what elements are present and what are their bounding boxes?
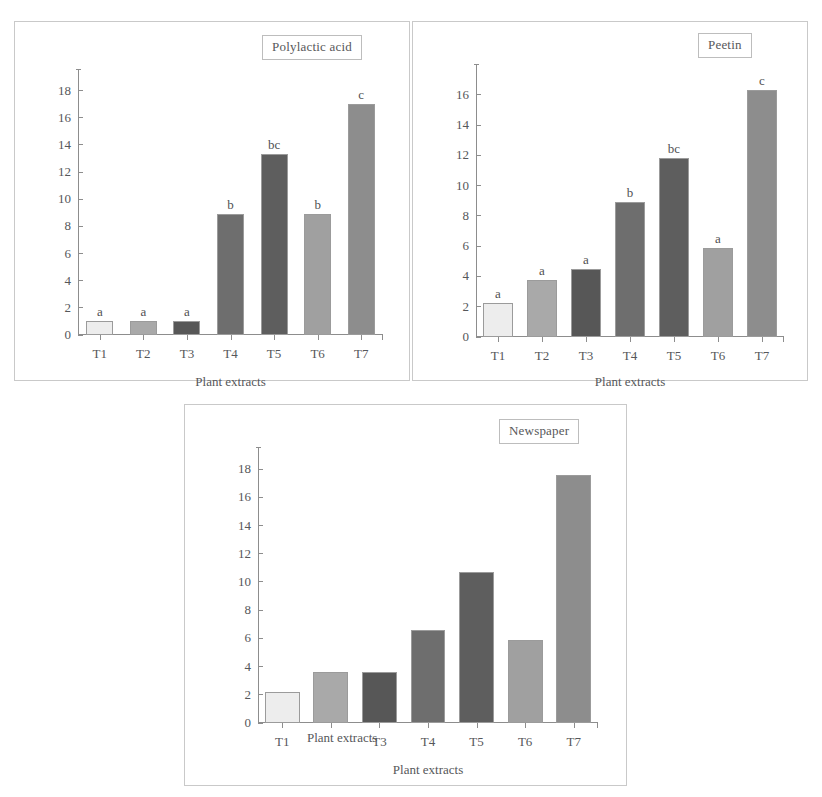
x-tick-mark-end [597,723,598,728]
bar-significance-letter: c [358,87,364,103]
y-tick-label: 14 [238,517,251,535]
chart-panel-newspaper: Newspaper 024681012141618T1T3T4T5T6T7 Pl… [184,404,627,786]
bar-significance-letter: a [97,304,103,320]
x-tick-mark [674,337,675,342]
bar[interactable] [313,672,348,723]
bar[interactable]: a [703,248,732,337]
y-tick-mark [476,155,481,156]
y-tick-mark [258,723,263,724]
bar[interactable] [411,630,446,723]
bar-significance-letter: b [627,185,634,201]
x-tick-label: T2 [136,346,150,362]
x-tick-label: T3 [180,346,194,362]
x-tick-mark [574,723,575,728]
x-tick-label: T2 [535,348,549,364]
plot-area-polylactic: 024681012141618aT1aT2aT3bT4bcT5bT6cT7 [78,77,383,335]
y-tick-mark [476,125,481,126]
bar[interactable]: a [483,303,512,337]
y-tick-label: 0 [245,714,252,732]
y-tick-mark [258,469,263,470]
x-tick-mark [630,337,631,342]
bar-significance-letter: a [539,263,545,279]
x-tick-mark [379,723,380,728]
bar[interactable]: bc [659,158,688,337]
y-tick-mark [78,90,83,91]
y-tick-mark [258,581,263,582]
bar[interactable]: a [130,321,157,335]
y-tick-mark [78,280,83,281]
x-tick-label: T7 [566,734,580,750]
bar[interactable]: b [615,202,644,337]
y-tick-mark [476,246,481,247]
stray-axis-label-newspaper: Plant extracts [307,730,377,746]
bar[interactable]: a [527,280,556,337]
bar[interactable]: c [348,104,375,335]
y-tick-label: 16 [58,109,71,127]
x-tick-label: T7 [354,346,368,362]
bar-significance-letter: a [140,304,146,320]
x-tick-mark [282,723,283,728]
bar-significance-letter: bc [268,137,280,153]
plot-area-newspaper: 024681012141618T1T3T4T5T6T7 [258,455,598,723]
bar-significance-letter: a [583,252,589,268]
y-tick-mark [78,226,83,227]
x-tick-label: T4 [421,734,435,750]
y-tick-label: 16 [238,488,251,506]
x-tick-label: T6 [518,734,532,750]
y-tick-label: 16 [456,86,469,104]
bar[interactable] [459,572,494,723]
chart-title-peetin: Peetin [698,33,752,58]
y-tick-mark [258,638,263,639]
x-tick-label: T1 [93,346,107,362]
bar[interactable]: b [217,214,244,335]
x-tick-label: T6 [310,346,324,362]
chart-panel-peetin: Peetin 0246810121416aT1aT2aT3bT4bcT5aT6c… [412,21,808,381]
y-tick-label: 10 [58,190,71,208]
x-tick-mark-end [382,335,383,340]
y-tick-label: 14 [58,136,71,154]
y-tick-label: 10 [456,177,469,195]
x-tick-mark [231,335,232,340]
bar[interactable]: a [173,321,200,335]
bar-significance-letter: a [495,286,501,302]
bar[interactable] [508,640,543,723]
x-axis-title-peetin: Plant extracts [476,374,784,390]
y-tick-mark [258,497,263,498]
y-axis-extension [476,64,477,73]
y-tick-mark [258,610,263,611]
x-axis-title-newspaper: Plant extracts [258,762,598,778]
y-tick-label: 8 [245,601,252,619]
bar-significance-letter: b [227,197,234,213]
y-tick-label: 6 [245,629,252,647]
bar[interactable]: a [86,321,113,335]
y-tick-mark [78,199,83,200]
y-tick-mark [476,306,481,307]
bar[interactable] [362,672,397,723]
x-tick-mark [762,337,763,342]
y-tick-label: 4 [65,272,72,290]
bar[interactable]: c [747,90,776,337]
y-tick-label: 2 [463,298,470,316]
y-tick-label: 8 [463,207,470,225]
y-tick-mark [258,525,263,526]
x-tick-label: T4 [223,346,237,362]
y-tick-mark [78,117,83,118]
y-tick-label: 0 [463,328,470,346]
chart-title-polylactic: Polylactic acid [262,35,362,60]
y-tick-label: 4 [245,658,252,676]
bar-significance-letter: a [184,304,190,320]
y-tick-label: 2 [245,686,252,704]
bar[interactable]: a [571,269,600,337]
bar[interactable]: bc [261,154,288,335]
y-axis-line [258,455,259,723]
bar[interactable] [556,475,591,723]
x-tick-mark [718,337,719,342]
bar[interactable]: b [304,214,331,335]
y-axis-extension [78,69,79,78]
x-tick-mark [187,335,188,340]
y-tick-mark [258,553,263,554]
y-tick-mark [258,694,263,695]
bar-significance-letter: b [314,197,321,213]
y-tick-mark [78,307,83,308]
bar[interactable] [265,692,300,723]
